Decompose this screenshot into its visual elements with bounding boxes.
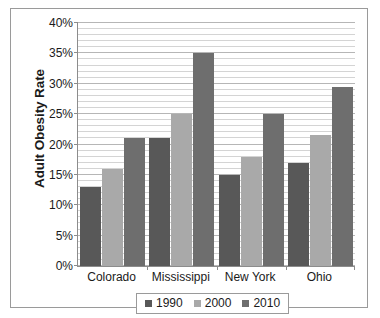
x-axis-tick-labels: ColoradoMississippiNew YorkOhio: [77, 270, 354, 284]
legend-swatch-icon: [145, 300, 152, 307]
x-axis-tick-label: New York: [216, 270, 285, 284]
bar-group: [78, 23, 147, 266]
bar[interactable]: [332, 87, 353, 266]
bar[interactable]: [219, 175, 240, 266]
bar-group: [286, 23, 355, 266]
legend-item[interactable]: 2000: [194, 296, 232, 310]
legend-label: 1990: [156, 296, 183, 310]
y-axis-tick-label: 0%: [56, 259, 73, 273]
bar[interactable]: [241, 157, 262, 266]
y-axis-tick-label: 35%: [49, 46, 73, 60]
bar[interactable]: [102, 169, 123, 266]
plot-area: [77, 23, 355, 267]
bar-group: [147, 23, 216, 266]
bar[interactable]: [171, 114, 192, 266]
x-axis-tick-label: Ohio: [285, 270, 354, 284]
legend-item[interactable]: 2010: [242, 296, 280, 310]
y-axis-tick-label: 20%: [49, 138, 73, 152]
bar[interactable]: [149, 138, 170, 266]
x-axis-tick-label: Colorado: [77, 270, 146, 284]
y-axis-tick-label: 5%: [56, 229, 73, 243]
bar[interactable]: [310, 135, 331, 266]
legend-label: 2000: [205, 296, 232, 310]
bars-layer: [78, 23, 355, 266]
x-axis-tick-label: Mississippi: [146, 270, 215, 284]
legend-swatch-icon: [194, 300, 201, 307]
bar[interactable]: [263, 114, 284, 266]
legend-swatch-icon: [242, 300, 249, 307]
bar[interactable]: [193, 53, 214, 266]
y-axis-tick-label: 10%: [49, 198, 73, 212]
bar-group: [217, 23, 286, 266]
chart-frame: Adult Obesity Rate 0%5%10%15%20%25%30%35…: [10, 8, 368, 308]
bar[interactable]: [288, 163, 309, 266]
y-axis-tick-label: 30%: [49, 77, 73, 91]
legend-item[interactable]: 1990: [145, 296, 183, 310]
y-axis-tick-label: 40%: [49, 16, 73, 30]
bar[interactable]: [80, 187, 101, 266]
legend-label: 2010: [253, 296, 280, 310]
y-axis-tick-label: 25%: [49, 107, 73, 121]
chart-legend: 199020002010: [136, 293, 289, 314]
x-axis-tick-mark: [354, 266, 355, 270]
y-axis-tick-labels: 0%5%10%15%20%25%30%35%40%: [33, 23, 73, 266]
bar[interactable]: [124, 138, 145, 266]
y-axis-tick-label: 15%: [49, 168, 73, 182]
